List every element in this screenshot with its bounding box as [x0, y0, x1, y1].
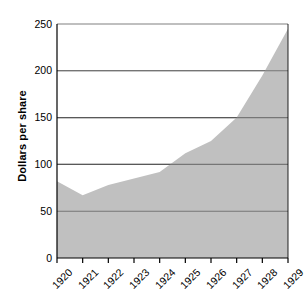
area-chart: Dollars per share 250 200 150 100 50 0 1… — [0, 0, 308, 299]
x-tick-labels: 1920 1921 1922 1923 1924 1925 1926 1927 … — [0, 0, 308, 299]
